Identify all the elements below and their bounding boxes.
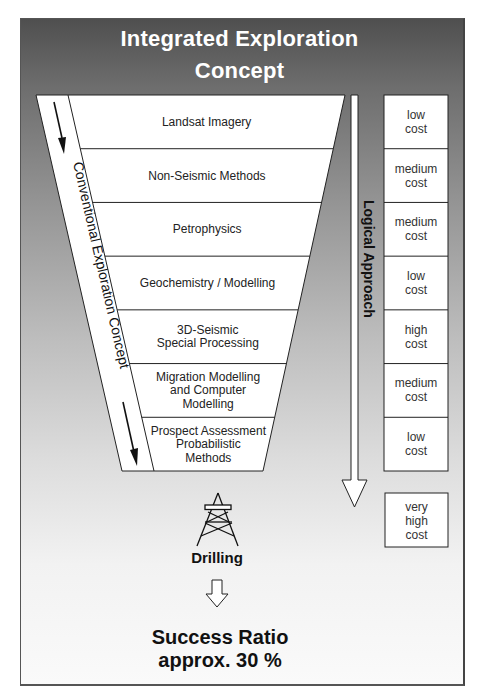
cost-label: low (407, 430, 425, 444)
cost-label: cost (405, 337, 428, 351)
tier-label: Modelling (182, 397, 233, 411)
tier-label: 3D-Seismic (177, 323, 238, 337)
down-arrow-icon (206, 580, 228, 607)
exploration-diagram: Landsat ImageryNon-Seismic MethodsPetrop… (0, 0, 479, 700)
logical-approach-label: Logical Approach (361, 200, 377, 318)
success-ratio-label: Success Ratio (0, 626, 440, 649)
cost-label: cost (405, 283, 428, 297)
success-ratio-value: approx. 30 % (0, 649, 440, 672)
cost-label: medium (395, 376, 438, 390)
tier-label: Prospect Assessment (151, 424, 267, 438)
very-high-cost-line-3: cost (405, 528, 428, 542)
cost-label: medium (395, 215, 438, 229)
very-high-cost-line-1: very (405, 500, 428, 514)
cost-label: cost (405, 444, 428, 458)
tier-label: Probabilistic (176, 437, 241, 451)
very-high-cost-line-2: high (405, 514, 428, 528)
cost-label: cost (405, 122, 428, 136)
cost-label: low (407, 269, 425, 283)
tier-label: Methods (185, 451, 231, 465)
tier-label: Geochemistry / Modelling (140, 276, 275, 290)
cost-label: high (405, 323, 428, 337)
drilling-label: Drilling (0, 549, 434, 566)
cost-label: cost (405, 229, 428, 243)
tier-label: Petrophysics (173, 222, 242, 236)
tier-label: Migration Modelling (156, 370, 260, 384)
cost-label: low (407, 108, 425, 122)
drilling-rig-icon (197, 493, 238, 546)
cost-label: medium (395, 162, 438, 176)
tier-label: and Computer (170, 383, 246, 397)
tier-label: Non-Seismic Methods (148, 169, 265, 183)
cost-label: cost (405, 390, 428, 404)
tier-label: Landsat Imagery (162, 115, 251, 129)
very-high-cost-box: very high cost (385, 493, 448, 547)
cost-label: cost (405, 176, 428, 190)
cost-column: lowcostmediumcostmediumcostlowcosthighco… (384, 95, 448, 471)
tier-label: Special Processing (157, 336, 259, 350)
